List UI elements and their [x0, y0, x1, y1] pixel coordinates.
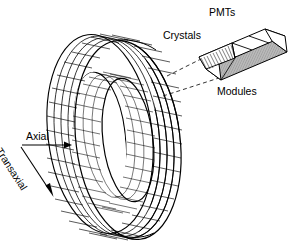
label-modules: Modules — [217, 86, 257, 97]
axial-arrow — [22, 142, 72, 149]
diagram-canvas — [0, 0, 299, 252]
label-crystals: Crystals — [163, 30, 201, 41]
label-axial: Axial — [26, 131, 49, 142]
pet-detector-ring-figure: PMTs Crystals Modules Axial Transaxial — [0, 0, 299, 252]
detector-module-block — [199, 29, 287, 80]
detector-ring — [36, 28, 192, 245]
label-pmts: PMTs — [209, 7, 235, 18]
